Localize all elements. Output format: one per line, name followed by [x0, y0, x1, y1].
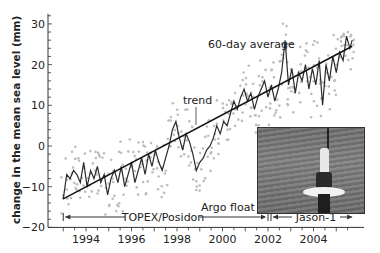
topex-posidon-label: TOPEX/Posidon	[121, 211, 205, 224]
trend-annotation: trend	[183, 94, 212, 107]
x-tick-label: 1994	[72, 233, 100, 246]
y-tick-label: 10	[31, 99, 45, 112]
x-tick-label: 1996	[118, 233, 146, 246]
y-axis-label: change in the mean sea level (mm)	[10, 24, 22, 224]
x-tick-label: 1998	[163, 233, 191, 246]
float-stem	[318, 194, 330, 214]
y-tick-label: 30	[31, 18, 45, 31]
x-tick-label: 2000	[209, 233, 237, 246]
x-tick-label: 2002	[254, 233, 282, 246]
sixty-day-average-annotation: 60-day average	[208, 38, 295, 51]
x-tick-label: 2004	[300, 233, 328, 246]
y-tick-label: −20	[22, 221, 45, 234]
y-tick-label: 0	[38, 140, 45, 153]
argo-float-annotation: Argo float	[201, 201, 255, 214]
argo-float-photo	[257, 127, 365, 214]
y-tick-label: −10	[22, 181, 45, 194]
y-tick-label: 20	[31, 59, 45, 72]
